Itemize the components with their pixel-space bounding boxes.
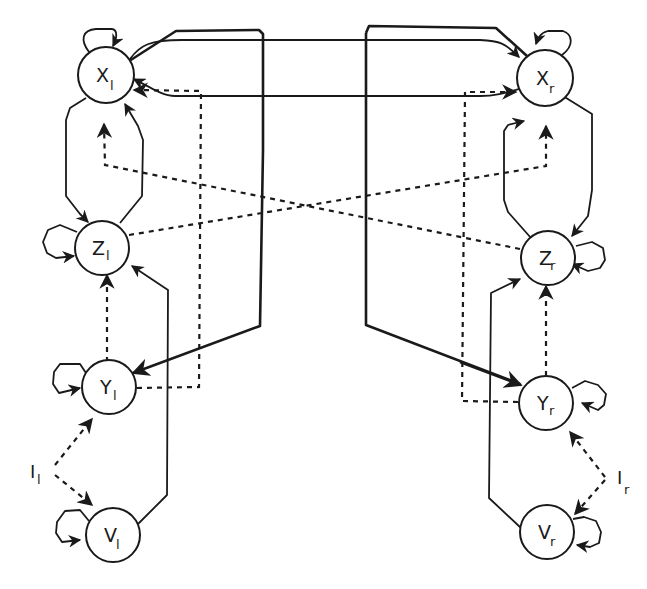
self-loop-zl [43, 225, 77, 258]
x-z-connections [66, 96, 592, 238]
edge-il-to-yl [55, 419, 92, 465]
self-loop-vr [573, 517, 601, 547]
thick-crossed-connections [123, 26, 527, 385]
edge-zr-to-xr [504, 121, 531, 238]
input-label-il: I l [30, 461, 41, 487]
node-vr-subscript: r [550, 534, 556, 549]
node-vr: V r [520, 505, 574, 559]
edge-xr-to-yl [366, 26, 527, 56]
edge-xr-to-xl [134, 79, 519, 96]
edge-xl-to-yr [123, 30, 520, 384]
input-il-label: I [30, 461, 35, 482]
x-crossing-connections [130, 40, 519, 96]
input-ir-subscript: r [624, 482, 630, 497]
node-yl-subscript: l [113, 388, 117, 403]
node-zr-subscript: r [550, 258, 556, 273]
edge-ir-to-vr [575, 480, 605, 514]
node-xl-label: X [96, 64, 109, 86]
self-loop-yr [572, 381, 606, 410]
edge-il-to-vl [55, 475, 92, 505]
node-yr: Y r [519, 376, 573, 430]
input-ir-label: I [617, 467, 622, 488]
node-zr: Z r [521, 231, 575, 285]
input-label-ir: I r [617, 467, 630, 497]
node-zl-label: Z [92, 237, 105, 259]
edge-zl-to-xr [129, 126, 546, 235]
dashed-connections [104, 90, 546, 402]
self-loop-zr [572, 242, 605, 271]
edge-ir-to-yr [570, 432, 605, 477]
network-diagram: X l X r Z l Z r Y l Y r V l V r I l [0, 0, 647, 589]
node-xr: X r [517, 50, 573, 106]
node-zl: Z l [75, 221, 129, 275]
input-connections [55, 419, 605, 514]
node-yr-label: Y [536, 392, 549, 414]
edge-xr-to-zr [563, 96, 592, 236]
node-yr-subscript: r [549, 403, 555, 418]
edge-zr-to-xl [104, 124, 520, 249]
node-zl-subscript: l [106, 248, 110, 263]
self-loop-vl [56, 510, 89, 542]
node-vl: V l [86, 508, 140, 562]
edge-vl-to-zl [132, 266, 168, 524]
edge-xl-to-xr [130, 40, 519, 59]
node-xr-label: X [536, 67, 549, 89]
node-xl-subscript: l [110, 78, 114, 93]
node-xl: X l [78, 47, 134, 103]
node-xr-subscript: r [549, 81, 555, 96]
input-il-subscript: l [37, 472, 41, 487]
edge-vr-to-zr [489, 279, 521, 528]
node-yl-label: Y [99, 376, 112, 398]
edge-zl-to-xl [120, 104, 143, 223]
node-yl: Y l [82, 360, 136, 414]
edge-xr-to-yl-down [133, 150, 263, 373]
edge-xl-to-zl [66, 98, 88, 222]
node-vl-subscript: l [116, 537, 120, 552]
